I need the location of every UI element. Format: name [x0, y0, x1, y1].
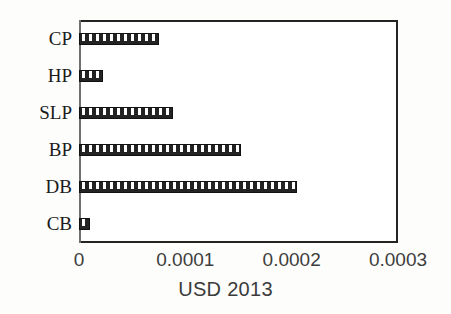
bar-cp — [79, 33, 159, 45]
x-axis-label-0.0001: 0.0001 — [156, 249, 214, 271]
x-axis-title: USD 2013 — [0, 278, 451, 301]
y-axis-label-bp: BP — [2, 139, 72, 161]
bar-row — [79, 65, 103, 87]
y-axis-label-cp: CP — [2, 28, 72, 50]
y-axis-label-hp: HP — [2, 65, 72, 87]
bar-row — [79, 213, 90, 235]
x-axis-label-0.0003: 0.0003 — [369, 249, 427, 271]
bar-hp — [79, 70, 103, 82]
bar-slp — [79, 107, 173, 119]
chart-figure: CPHPSLPBPDBCB 00.00010.00020.0003 USD 20… — [0, 0, 451, 314]
x-axis-label-0: 0 — [74, 249, 85, 271]
y-axis-label-cb: CB — [2, 213, 72, 235]
plot-area — [79, 20, 398, 243]
y-axis-tick-labels: CPHPSLPBPDBCB — [0, 20, 72, 243]
y-axis-line — [79, 20, 81, 243]
bar-row — [79, 102, 173, 124]
y-axis-label-slp: SLP — [2, 102, 72, 124]
bar-row — [79, 139, 241, 161]
bar-row — [79, 28, 159, 50]
bar-bp — [79, 144, 241, 156]
x-axis-tick-labels: 00.00010.00020.0003 — [0, 249, 451, 277]
y-axis-label-db: DB — [2, 176, 72, 198]
bar-row — [79, 176, 297, 198]
bar-db — [79, 181, 297, 193]
x-axis-label-0.0002: 0.0002 — [263, 249, 321, 271]
bar-cb — [79, 218, 90, 230]
